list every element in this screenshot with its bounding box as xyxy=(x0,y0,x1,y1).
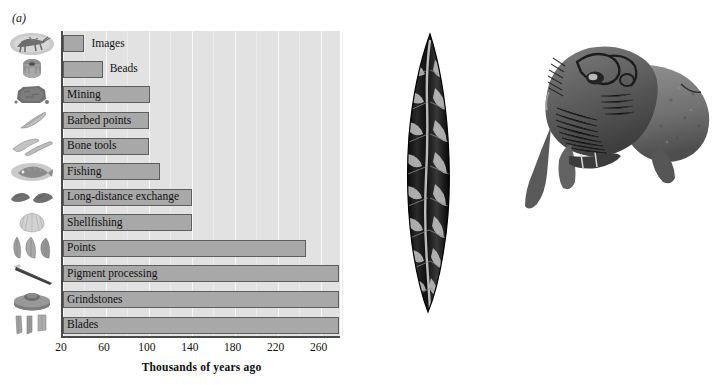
ochre-mining-icon xyxy=(4,82,59,108)
bar-grindstones: Grindstones xyxy=(63,291,339,308)
bar-label: Shellfishing xyxy=(67,217,123,229)
bar-row: Grindstones xyxy=(63,287,340,313)
panel-b-artifacts: (b) xyxy=(380,0,724,385)
stone-points-icon xyxy=(4,236,59,262)
bar-blades: Blades xyxy=(63,317,339,334)
stone-blades-icon xyxy=(4,312,59,338)
icon-cell xyxy=(4,57,59,83)
carved-bison-sculpture-artifact xyxy=(485,22,715,232)
bar-row: Shellfishing xyxy=(63,210,340,236)
bar-label: Beads xyxy=(110,64,138,76)
bar-chart-plot-area: ImagesBeadsMiningBarbed pointsBone tools… xyxy=(61,31,340,338)
icon-cell xyxy=(4,287,59,313)
bar-label: Images xyxy=(91,38,124,50)
bar-label: Barbed points xyxy=(67,115,131,127)
bar-row: Bone tools xyxy=(63,133,340,159)
bar-bone-tools: Bone tools xyxy=(63,138,149,155)
x-tick-label: 260 xyxy=(310,341,327,353)
rock-art-animal-icon xyxy=(4,31,59,57)
bar-pigment-processing: Pigment processing xyxy=(63,265,339,282)
x-tick-label: 60 xyxy=(98,341,110,353)
bar-images: Images xyxy=(63,35,84,52)
gridline xyxy=(342,31,343,336)
x-tick-label: 140 xyxy=(181,341,198,353)
obsidian-flake-icon xyxy=(4,184,59,210)
icon-cell xyxy=(4,261,59,287)
icon-cell xyxy=(4,312,59,338)
bar-mining: Mining xyxy=(63,86,150,103)
figure-root: (a) xyxy=(0,0,724,385)
icon-cell xyxy=(4,133,59,159)
bar-fishing: Fishing xyxy=(63,163,160,180)
bar-row: Pigment processing xyxy=(63,261,340,287)
panel-a-chart: (a) xyxy=(0,0,380,385)
x-tick-label: 180 xyxy=(224,341,241,353)
x-tick-label: 20 xyxy=(55,341,67,353)
bead-icon xyxy=(4,57,59,83)
x-axis-title: Thousands of years ago xyxy=(61,361,342,373)
icon-cell xyxy=(4,108,59,134)
seashell-icon xyxy=(4,210,59,236)
bar-label: Blades xyxy=(67,319,98,331)
bar-row: Fishing xyxy=(63,159,340,185)
bar-label: Mining xyxy=(67,89,101,101)
grindstone-icon xyxy=(4,287,59,313)
icon-cell xyxy=(4,82,59,108)
bar-label: Bone tools xyxy=(67,140,117,152)
bar-row: Beads xyxy=(63,57,340,83)
panel-a-label: (a) xyxy=(12,11,26,26)
bar-label: Pigment processing xyxy=(67,268,157,280)
bar-label: Grindstones xyxy=(67,294,123,306)
icon-cell xyxy=(4,31,59,57)
bar-points: Points xyxy=(63,240,306,257)
pigment-crayon-icon xyxy=(4,261,59,287)
x-axis-ticks: 2060100140180220260 xyxy=(61,341,342,359)
category-icon-column xyxy=(4,31,59,338)
fish-icon xyxy=(4,159,59,185)
bar-row: Long-distance exchange xyxy=(63,184,340,210)
bar-series: ImagesBeadsMiningBarbed pointsBone tools… xyxy=(63,31,340,336)
bar-row: Images xyxy=(63,31,340,57)
bar-long-distance-exchange: Long-distance exchange xyxy=(63,189,192,206)
icon-cell xyxy=(4,184,59,210)
bar-shellfishing: Shellfishing xyxy=(63,214,192,231)
bar-label: Points xyxy=(67,243,96,255)
bar-row: Points xyxy=(63,236,340,262)
bar-row: Blades xyxy=(63,312,340,338)
bone-tool-icon xyxy=(4,133,59,159)
bar-row: Barbed points xyxy=(63,108,340,134)
x-tick-label: 220 xyxy=(267,341,284,353)
bar-label: Long-distance exchange xyxy=(67,192,179,204)
stone-blade-point-artifact xyxy=(386,30,476,320)
x-tick-label: 100 xyxy=(138,341,155,353)
icon-cell xyxy=(4,236,59,262)
barbed-point-icon xyxy=(4,108,59,134)
icon-cell xyxy=(4,210,59,236)
bar-row: Mining xyxy=(63,82,340,108)
icon-cell xyxy=(4,159,59,185)
bar-label: Fishing xyxy=(67,166,102,178)
bar-beads: Beads xyxy=(63,61,103,78)
bar-barbed-points: Barbed points xyxy=(63,112,149,129)
